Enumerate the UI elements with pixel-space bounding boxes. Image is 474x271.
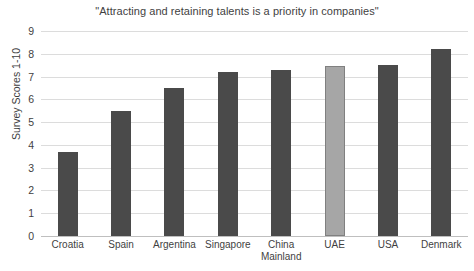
bar-chart: "Attracting and retaining talents is a p…: [0, 0, 474, 271]
y-axis-tick-label: 7: [0, 72, 34, 83]
chart-title: "Attracting and retaining talents is a p…: [0, 5, 474, 17]
bar[interactable]: [58, 152, 78, 236]
y-axis-tick-label: 0: [0, 231, 34, 242]
y-axis-tick-label: 6: [0, 94, 34, 105]
y-axis-tick-label: 1: [0, 208, 34, 219]
bar[interactable]: [111, 111, 131, 236]
x-axis-tick-label: Denmark: [415, 239, 468, 251]
bar[interactable]: [431, 49, 451, 236]
y-axis-tick-label: 9: [0, 26, 34, 37]
gridline: [41, 236, 468, 237]
y-axis-tick-label: 5: [0, 117, 34, 128]
x-axis-tick-label: Argentina: [148, 239, 201, 251]
x-axis-tick-label: Croatia: [41, 239, 94, 251]
y-axis-tick-label: 3: [0, 163, 34, 174]
x-axis-tick-label: USA: [361, 239, 414, 251]
y-axis-tick-label: 2: [0, 185, 34, 196]
x-axis-tick-label: Singapore: [201, 239, 254, 251]
bar[interactable]: [378, 65, 398, 236]
x-axis-tick-label: Spain: [94, 239, 147, 251]
bar[interactable]: [164, 88, 184, 236]
y-axis-tick-label: 8: [0, 49, 34, 60]
bar-series: [41, 31, 468, 236]
bar[interactable]: [218, 72, 238, 236]
x-axis-tick-labels: CroatiaSpainArgentinaSingaporeChina Main…: [41, 239, 468, 269]
x-axis-tick-label: UAE: [308, 239, 361, 251]
plot-area: [41, 31, 468, 236]
bar[interactable]: [271, 70, 291, 236]
x-axis-tick-label: China Mainland: [255, 239, 308, 262]
y-axis-tick-label: 4: [0, 140, 34, 151]
bar[interactable]: [325, 66, 345, 236]
